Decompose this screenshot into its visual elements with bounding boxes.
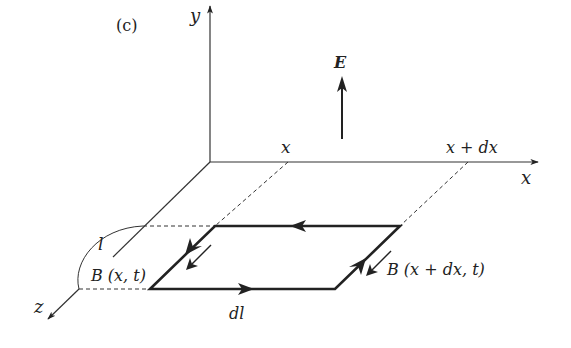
- z-axis-lower: [48, 289, 79, 319]
- z-axis-label: z: [33, 296, 44, 317]
- position-xdx-label: x + dx: [446, 138, 498, 157]
- panel-label: (c): [116, 16, 137, 35]
- b-left-label: B (x, t): [90, 266, 146, 285]
- faraday-loop-diagram: (c) y x z E x x + dx l dl B (x, t) B (x …: [0, 0, 571, 348]
- y-axis-label: y: [189, 5, 201, 26]
- x-axis-label: x: [521, 167, 531, 188]
- length-l-label: l: [98, 234, 103, 254]
- e-field-label: E: [333, 53, 347, 72]
- dl-label: dl: [229, 304, 244, 323]
- dashed-x-to-loop: [215, 162, 288, 226]
- current-loop: [150, 226, 400, 289]
- b-right-label: B (x + dx, t): [386, 260, 485, 279]
- position-x-label: x: [281, 137, 291, 157]
- z-axis-upper: [113, 162, 210, 257]
- dashed-xdx-to-loop: [400, 162, 468, 226]
